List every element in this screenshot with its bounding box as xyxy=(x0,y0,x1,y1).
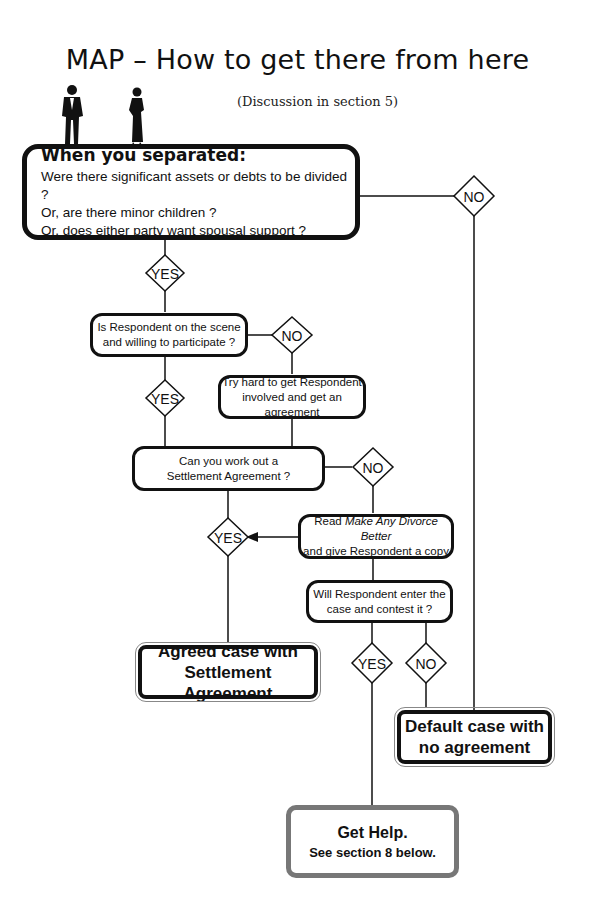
decision-label-no: NO xyxy=(363,460,384,476)
box-text-line: Settlement Agreement ? xyxy=(167,469,290,484)
outcome-get-help: Get Help. See section 8 below. xyxy=(286,805,459,878)
decision-label-yes: YES xyxy=(358,656,386,672)
outcome-default-case: Default case with no agreement xyxy=(397,710,552,764)
try-hard-box: Try hard to get Respondent involved and … xyxy=(218,375,366,419)
box-text-prefix: Read xyxy=(314,515,345,527)
box-text-line: case and contest it ? xyxy=(327,602,432,617)
decision-label-yes: YES xyxy=(214,530,242,546)
decision-label-no: NO xyxy=(416,656,437,672)
start-question-line: Or, does either party want spousal suppo… xyxy=(41,222,306,240)
start-question-line: Were there significant assets or debts t… xyxy=(41,168,355,204)
start-heading: When you separated: xyxy=(41,145,246,165)
box-text-line: Read Make Any Divorce Better xyxy=(301,514,451,544)
start-question-box: When you separated: Were there significa… xyxy=(22,144,360,240)
outcome-text-line: Settlement Agreement xyxy=(142,662,314,704)
read-book-box: Read Make Any Divorce Better and give Re… xyxy=(298,514,454,559)
outcome-text-line: no agreement xyxy=(419,737,530,758)
start-question-line: Or, are there minor children ? xyxy=(41,204,217,222)
box-text-line: Try hard to get Respondent xyxy=(222,375,362,390)
box-text-line: Can you work out a xyxy=(179,454,278,469)
box-text-line: and give Respondent a copy xyxy=(303,544,449,559)
settlement-question-box: Can you work out a Settlement Agreement … xyxy=(132,446,325,491)
outcome-text-line: Agreed case with xyxy=(158,641,298,662)
decision-label-no: NO xyxy=(282,328,303,344)
outcome-agreed-case: Agreed case with Settlement Agreement xyxy=(138,645,318,699)
man-silhouette-icon xyxy=(58,84,88,146)
outcome-text-line: See section 8 below. xyxy=(309,844,436,862)
outcome-text-line: Default case with xyxy=(405,716,544,737)
book-title: Make Any Divorce Better xyxy=(345,515,438,542)
decision-label-yes: YES xyxy=(151,391,179,407)
box-text-line: Will Respondent enter the xyxy=(313,587,445,602)
decision-label-no: NO xyxy=(464,189,485,205)
respondent-scene-box: Is Respondent on the scene and willing t… xyxy=(90,313,248,357)
outcome-text-line: Get Help. xyxy=(337,822,407,844)
contest-question-box: Will Respondent enter the case and conte… xyxy=(306,580,453,623)
box-text-line: Is Respondent on the scene xyxy=(97,320,240,335)
box-text-line: involved and get an agreement xyxy=(221,390,363,420)
woman-silhouette-icon xyxy=(126,86,148,146)
decision-label-yes: YES xyxy=(151,266,179,282)
box-text-line: and willing to participate ? xyxy=(103,335,235,350)
